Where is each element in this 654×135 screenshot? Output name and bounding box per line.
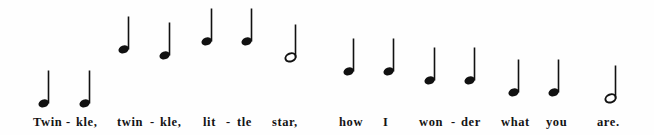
quarter-note-icon	[548, 56, 564, 99]
quarter-note-icon	[424, 44, 440, 87]
lyric-syllable: lit	[203, 116, 216, 129]
quarter-note-icon	[38, 67, 54, 110]
lyric-syllable: I	[383, 116, 388, 129]
lyric-syllable: won	[419, 116, 443, 129]
quarter-note-icon	[201, 5, 217, 48]
quarter-note-icon	[343, 35, 359, 78]
lyric-syllable: star,	[272, 116, 298, 129]
notes-layer	[0, 0, 654, 112]
sheet-music-figure: Twin-kle,twin-kle,lit-tlestar,howIwon-de…	[0, 0, 654, 135]
lyric-syllable: twin	[117, 116, 143, 129]
lyric-syllable: Twin	[33, 116, 62, 129]
lyric-syllable: der	[461, 116, 481, 129]
half-note-icon	[605, 62, 621, 105]
lyric-syllable: you	[546, 116, 567, 129]
quarter-note-icon	[383, 35, 399, 78]
lyric-hyphen: -	[66, 116, 71, 129]
quarter-note-icon	[118, 13, 134, 56]
quarter-note-icon	[79, 67, 95, 110]
lyric-syllable: kle,	[76, 116, 98, 129]
lyric-hyphen: -	[226, 116, 231, 129]
half-note-icon	[285, 21, 301, 64]
lyric-hyphen: -	[451, 116, 456, 129]
quarter-note-icon	[159, 19, 175, 62]
lyric-syllable: tle	[237, 116, 252, 129]
lyric-syllable: are.	[597, 116, 620, 129]
lyrics-line: Twin-kle,twin-kle,lit-tlestar,howIwon-de…	[0, 116, 654, 135]
quarter-note-icon	[464, 44, 480, 87]
lyric-syllable: how	[339, 116, 363, 129]
lyric-syllable: what	[501, 116, 530, 129]
lyric-syllable: kle,	[160, 116, 182, 129]
quarter-note-icon	[508, 56, 524, 99]
quarter-note-icon	[241, 5, 257, 48]
lyric-hyphen: -	[150, 116, 155, 129]
